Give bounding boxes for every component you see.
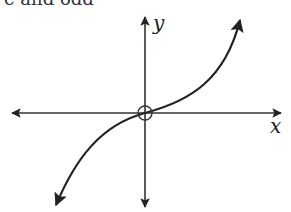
function-graph: y x [0,0,291,212]
y-axis-label: y [152,11,165,35]
x-axis-label: x [270,114,281,138]
